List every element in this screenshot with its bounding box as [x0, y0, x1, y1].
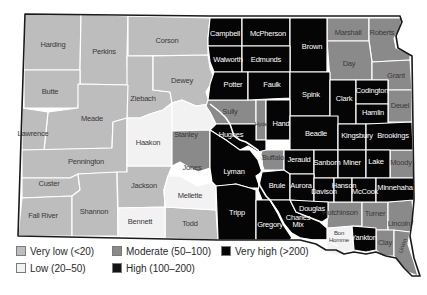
legend-swatch-very-low	[16, 246, 26, 256]
label-lawrence: Lawrence	[18, 129, 49, 138]
label-charles-mix-2: Mix	[292, 220, 304, 229]
label-aurora: Aurora	[290, 181, 312, 190]
legend-swatch-moderate	[112, 246, 122, 256]
legend-item-high: High (100–200)	[112, 261, 195, 275]
label-shannon: Shannon	[80, 207, 109, 216]
label-marshall: Marshall	[335, 28, 362, 37]
label-custer: Custer	[39, 179, 61, 188]
label-tripp: Tripp	[229, 208, 245, 217]
label-ziebach: Ziebach	[130, 94, 155, 103]
map-legend: Very low (<20) Low (20–50) Moderate (50–…	[16, 244, 316, 288]
label-haakon: Haakon	[136, 138, 161, 147]
label-hyde: Hyde	[254, 121, 268, 127]
legend-label-low: Low (20–50)	[30, 263, 86, 274]
label-campbell: Campbell	[210, 29, 241, 38]
label-day: Day	[343, 59, 356, 68]
label-mccook: McCook	[352, 187, 379, 196]
label-kingsbury: Kingsbury	[341, 131, 373, 140]
label-grant: Grant	[387, 71, 406, 80]
label-yankton: Yankton	[351, 233, 377, 242]
legend-swatch-very-high	[221, 246, 231, 256]
legend-label-high: High (100–200)	[126, 263, 195, 274]
label-bon-homme-1: Bon	[334, 230, 344, 236]
label-corson: Corson	[156, 36, 179, 45]
label-meade: Meade	[81, 114, 103, 123]
label-bon-homme-2: Homme	[329, 237, 350, 243]
label-deuel: Deuel	[391, 101, 410, 110]
label-faulk: Faulk	[263, 80, 281, 89]
label-sully: Sully	[222, 107, 238, 116]
label-potter: Potter	[224, 80, 244, 89]
label-stanley: Stanley	[174, 130, 198, 139]
label-edmunds: Edmunds	[251, 55, 282, 64]
label-clark: Clark	[336, 94, 353, 103]
legend-item-very-high: Very high (>200)	[221, 244, 309, 258]
legend-item-low: Low (20–50)	[16, 261, 86, 275]
label-hughes: Hughes	[219, 130, 244, 139]
label-minnehaha: Minnehaha	[377, 183, 413, 192]
label-brown: Brown	[302, 42, 322, 51]
label-jones: Jones	[182, 163, 201, 172]
label-clay: Clay	[378, 238, 393, 247]
label-roberts: Roberts	[370, 28, 395, 37]
label-miner: Miner	[343, 158, 361, 167]
label-hand: Hand	[272, 119, 289, 128]
label-hutchinson: Hutchinson	[322, 208, 358, 217]
label-todd: Todd	[182, 219, 197, 228]
label-turner: Turner	[365, 209, 386, 218]
legend-label-very-low: Very low (<20)	[30, 246, 94, 257]
label-codington: Codington	[356, 86, 388, 95]
label-spink: Spink	[302, 90, 320, 99]
label-lincoln: Lincoln	[388, 219, 410, 228]
label-dewey: Dewey	[171, 76, 193, 85]
label-lyman: Lyman	[223, 167, 244, 176]
label-jerauld: Jerauld	[287, 155, 310, 164]
label-gregory: Gregory	[257, 220, 283, 229]
label-hamlin: Hamlin	[362, 108, 384, 117]
county-roberts	[369, 18, 410, 62]
label-butte: Butte	[42, 87, 59, 96]
label-jackson: Jackson	[131, 181, 157, 190]
label-mellette: Mellette	[178, 191, 203, 200]
label-walworth: Walworth	[213, 55, 242, 64]
county-shannon	[72, 172, 118, 236]
label-harding: Harding	[41, 40, 66, 49]
label-fall-river: Fall River	[28, 211, 58, 220]
legend-swatch-low	[16, 263, 26, 273]
label-sanborn: Sanborn	[314, 158, 341, 167]
label-douglas: Douglas	[299, 204, 326, 213]
label-brule: Brule	[269, 181, 286, 190]
legend-label-very-high: Very high (>200)	[235, 246, 309, 257]
label-perkins: Perkins	[92, 47, 116, 56]
legend-item-very-low: Very low (<20)	[16, 244, 94, 258]
label-mcpherson: McPherson	[250, 29, 286, 38]
label-lake: Lake	[368, 157, 383, 166]
label-buffalo: Buffalo	[262, 153, 284, 162]
label-brookings: Brookings	[377, 131, 409, 140]
legend-item-moderate: Moderate (50–100)	[112, 244, 211, 258]
label-pennington: Pennington	[68, 157, 104, 166]
label-bennett: Bennett	[128, 217, 154, 226]
label-moody: Moody	[390, 158, 412, 167]
label-beadle: Beadle	[305, 129, 327, 138]
legend-label-moderate: Moderate (50–100)	[126, 246, 211, 257]
legend-swatch-high	[112, 263, 122, 273]
